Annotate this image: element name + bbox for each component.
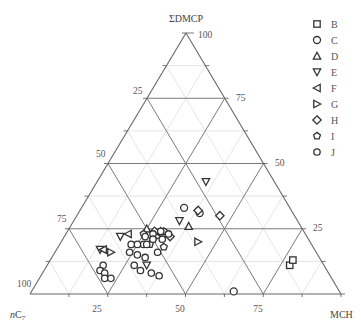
tick-left-75: 75 [57,214,67,224]
legend-label: E [331,67,337,78]
data-point-E [202,179,209,186]
legend-label: C [331,35,338,46]
data-point-I [160,243,167,250]
data-point-E [117,233,124,240]
legend-item-F: F [313,83,337,94]
ternary-chart: ΣDMCP nC7 MCH 100 25 50 75 100 75 50 25 … [0,0,361,324]
legend-item-D: D [313,51,338,62]
legend-label: J [331,147,335,158]
data-point-E [143,262,150,269]
data-point-E [176,218,183,225]
data-point-J [131,262,137,268]
data-point-G [195,238,202,245]
legend-label: F [331,83,337,94]
data-point-H [216,212,224,220]
data-point-J [148,270,154,276]
legend-marker-icon [313,84,320,91]
series-C [181,204,238,295]
left-vertex-label: nC7 [10,309,26,322]
legend-marker-icon [313,69,320,76]
legend-marker-icon [313,116,321,124]
legend-label: I [331,131,334,142]
grid-line-nc7 [167,66,303,294]
tick-right-25: 25 [313,223,323,233]
tick-left-50: 50 [96,149,106,159]
grid-line-mch [302,261,322,294]
data-point-J [134,252,140,258]
data-point-J [128,241,134,247]
legend-label: D [331,51,338,62]
legend-item-I: I [314,131,335,142]
data-point-J [144,241,150,247]
minor-grid [50,66,322,294]
data-point-J [142,233,148,239]
legend-marker-icon [314,149,320,155]
data-point-F [124,230,131,237]
legend-item-J: J [314,147,335,158]
tick-right-50: 50 [275,158,285,168]
data-point-J [156,273,162,279]
grid-line-mch [69,66,206,294]
data-point-B [290,257,296,263]
data-point-J [165,231,171,237]
legend-marker-icon [314,132,321,139]
data-point-J [154,249,160,255]
legend: BCDEFGHIJ [313,19,338,158]
data-point-J [134,241,140,247]
legend-marker-icon [314,37,321,44]
data-point-J [137,267,143,273]
legend-item-E: E [313,67,337,78]
grid-line-mch [224,196,283,294]
legend-label: H [331,115,338,126]
series-E [96,179,209,269]
grid-line-nc7 [50,261,69,294]
legend-marker-icon [314,100,321,107]
data-point-J [158,228,164,234]
data-point-D [185,222,192,229]
data-point-J [142,254,148,260]
legend-item-B: B [314,19,338,30]
tick-right-75: 75 [236,93,246,103]
legend-marker-icon [314,21,320,27]
legend-label: G [331,99,338,110]
tick-top-100: 100 [198,30,213,40]
legend-item-G: G [314,99,338,110]
legend-marker-icon [313,52,320,59]
tick-left-100: 100 [17,279,32,289]
data-point-G [108,249,115,256]
legend-item-C: C [314,35,339,46]
right-vertex-label: MCH [330,309,353,320]
data-point-J [108,275,114,281]
legend-item-H: H [313,115,338,126]
tick-bottom-50: 50 [175,304,185,314]
tick-left-25: 25 [133,86,143,96]
top-vertex-label: ΣDMCP [169,13,204,24]
data-point-J [150,236,156,242]
legend-label: B [331,19,338,30]
series-B [287,257,297,269]
data-point-J [126,249,132,255]
data-point-J [159,236,165,242]
data-point-C [181,204,188,211]
tick-bottom-25: 25 [92,304,102,314]
data-point-C [230,288,237,295]
data-point-J [101,275,107,281]
tick-bottom-75: 75 [253,304,263,314]
